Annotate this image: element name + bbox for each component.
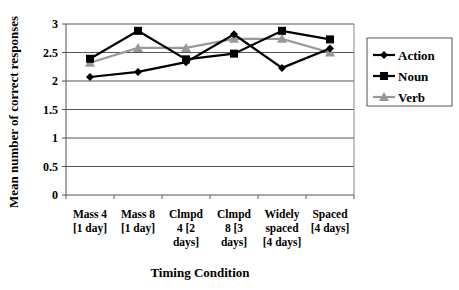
square-marker bbox=[86, 55, 94, 63]
x-axis-title: Timing Condition bbox=[150, 265, 250, 280]
x-category-label: Mass 4[1 day] bbox=[73, 208, 107, 235]
x-category-label: Spaced[4 days] bbox=[311, 208, 350, 235]
legend: ActionNounVerb bbox=[367, 38, 452, 106]
series-line bbox=[90, 31, 330, 60]
x-category-label: Clmpd8 [3days] bbox=[217, 208, 251, 249]
square-marker bbox=[134, 27, 142, 35]
x-category-label: Widelyspaced[4 days] bbox=[263, 208, 302, 249]
y-tick-label: 3 bbox=[52, 17, 58, 31]
gridlines bbox=[66, 24, 354, 195]
y-tick-label: 1.5 bbox=[43, 103, 58, 117]
y-tick-label: 1 bbox=[52, 131, 58, 145]
square-marker bbox=[326, 35, 334, 43]
y-axis: 00.511.522.53 bbox=[43, 17, 66, 202]
square-marker bbox=[230, 50, 238, 58]
legend-label: Verb bbox=[398, 90, 425, 105]
x-category-label: Mass 8[1 day] bbox=[121, 208, 155, 235]
square-marker bbox=[380, 72, 388, 80]
y-tick-label: 0.5 bbox=[43, 160, 58, 174]
x-category-label: Clmpd4 [2days] bbox=[169, 208, 203, 249]
diamond-marker bbox=[134, 68, 142, 76]
y-tick-label: 2 bbox=[52, 74, 58, 88]
square-marker bbox=[278, 27, 286, 35]
legend-label: Noun bbox=[398, 69, 429, 84]
x-axis: Mass 4[1 day]Mass 8[1 day]Clmpd4 [2days]… bbox=[66, 195, 354, 249]
y-tick-label: 2.5 bbox=[43, 46, 58, 60]
diamond-marker bbox=[86, 73, 94, 81]
square-marker bbox=[182, 55, 190, 63]
y-axis-title: Mean number of correct responses bbox=[6, 16, 21, 208]
y-tick-label: 0 bbox=[52, 188, 58, 202]
data-series bbox=[85, 27, 335, 81]
line-chart: 00.511.522.53 Mass 4[1 day]Mass 8[1 day]… bbox=[0, 0, 459, 290]
series-noun bbox=[86, 27, 334, 64]
legend-label: Action bbox=[398, 48, 436, 63]
series-line bbox=[90, 39, 330, 63]
